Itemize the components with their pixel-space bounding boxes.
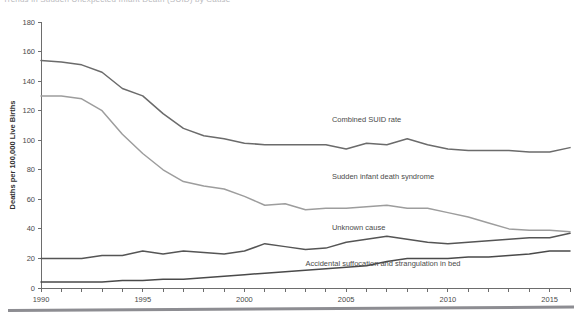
y-axis-title-text: Deaths per 100,000 Live Births xyxy=(8,101,17,210)
series-line-0 xyxy=(41,60,570,152)
y-tick-label: 20 xyxy=(27,254,35,263)
series-lines xyxy=(41,60,570,282)
x-tick-label: 1995 xyxy=(134,295,151,304)
x-tick-label: 2010 xyxy=(440,295,457,304)
suid-trends-line-chart: 020406080100120140160180 199019952000200… xyxy=(0,8,581,304)
y-tick-label: 180 xyxy=(22,18,35,27)
x-tick-label: 2015 xyxy=(541,295,558,304)
chart-page: Trends in Sudden Unexpected Infant Death… xyxy=(0,0,581,322)
y-tick-label: 60 xyxy=(27,195,35,204)
y-axis: 020406080100120140160180 xyxy=(22,18,41,293)
series-line-2 xyxy=(41,233,570,258)
y-tick-label: 160 xyxy=(22,47,35,56)
clipped-title-text: Trends in Sudden Unexpected Infant Death… xyxy=(3,0,230,4)
chart-svg: 020406080100120140160180 199019952000200… xyxy=(0,8,581,304)
y-tick-label: 120 xyxy=(22,106,35,115)
series-labels: Combined SUID rateSudden infant death sy… xyxy=(306,115,461,267)
y-tick-label: 100 xyxy=(22,136,35,145)
bottom-rule xyxy=(8,306,574,312)
series-label-2: Unknown cause xyxy=(332,223,385,232)
series-label-1: Sudden infant death syndrome xyxy=(332,172,434,181)
x-tick-label: 2005 xyxy=(338,295,355,304)
x-tick-label: 2000 xyxy=(236,295,253,304)
series-line-1 xyxy=(41,96,570,232)
y-tick-label: 80 xyxy=(27,165,35,174)
series-label-0: Combined SUID rate xyxy=(332,115,401,124)
y-tick-label: 40 xyxy=(27,224,35,233)
series-label-3: Accidental suffocation and strangulation… xyxy=(306,259,461,268)
x-tick-label: 1990 xyxy=(33,295,50,304)
y-tick-label: 0 xyxy=(31,284,35,293)
x-axis: 199019952000200520102015 xyxy=(33,288,570,304)
y-axis-title: Deaths per 100,000 Live Births xyxy=(8,101,17,210)
y-tick-label: 140 xyxy=(22,77,35,86)
